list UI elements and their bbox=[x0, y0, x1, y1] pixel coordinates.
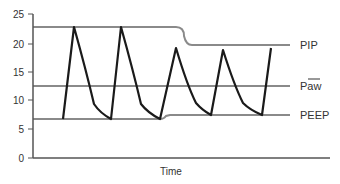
y-tick-25: 25 bbox=[13, 9, 25, 20]
pressure-chart: 25 20 15 10 5 0 PIP Paw PEEP Time bbox=[0, 0, 340, 184]
y-tick-labels: 25 20 15 10 5 0 bbox=[13, 9, 25, 164]
y-tick-0: 0 bbox=[18, 153, 24, 164]
y-tick-5: 5 bbox=[18, 124, 24, 135]
y-tick-15: 15 bbox=[13, 67, 25, 78]
y-tick-10: 10 bbox=[13, 95, 25, 106]
pip-label: PIP bbox=[300, 39, 318, 51]
y-tick-20: 20 bbox=[13, 39, 25, 50]
x-axis-title: Time bbox=[160, 166, 182, 177]
chart-container: 25 20 15 10 5 0 PIP Paw PEEP Time bbox=[0, 0, 340, 184]
paw-label: Paw bbox=[300, 80, 321, 92]
pressure-waveform bbox=[63, 27, 271, 119]
peep-label: PEEP bbox=[300, 109, 329, 121]
